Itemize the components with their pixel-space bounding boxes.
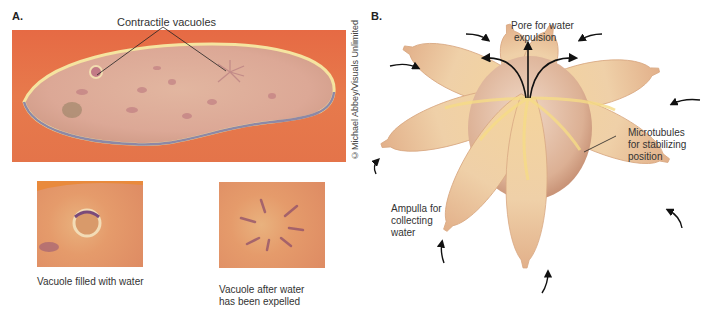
inflow-arrow-icon	[466, 34, 488, 40]
inflow-arrow-icon	[390, 64, 418, 68]
inflow-arrow-icon	[580, 34, 602, 40]
inflow-arrow-icon	[672, 100, 700, 105]
inflow-arrow-icon	[374, 160, 378, 174]
ampulla-label-line1: Ampulla for	[391, 203, 442, 215]
contractile-vacuole-diagram	[0, 0, 711, 316]
inflow-arrow-icon	[542, 272, 548, 293]
pore-label-line1: Pore for water	[511, 20, 574, 32]
pore-label-line2: expulsion	[514, 32, 556, 44]
inflow-arrow-icon	[668, 210, 682, 228]
microtubules-label-line1: Microtubules	[628, 127, 685, 139]
microtubules-label-line3: position	[628, 151, 662, 163]
microtubules-label-line2: for stabilizing	[628, 139, 686, 151]
ampulla-label-line3: water	[391, 227, 415, 239]
inflow-arrow-icon	[441, 242, 444, 263]
ampulla-label-line2: collecting	[391, 215, 433, 227]
